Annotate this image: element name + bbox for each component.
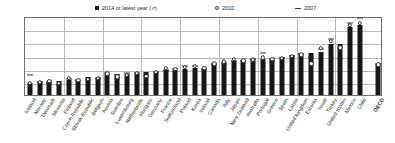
bar-2014 [173,70,178,95]
gini-chart: 2014 or latest year (↗) 2010 2007 0.500.… [0,0,395,143]
bar-slot [355,18,365,95]
bar-slot [373,18,383,95]
bar-2014 [183,69,188,95]
bar-slot [326,18,336,95]
legend-label-2007: 2007 [304,2,316,14]
bar-2014 [221,62,226,95]
bar-slot [335,18,345,95]
bar-2014 [260,59,265,95]
bar-slot [258,18,268,95]
bar-slot [44,18,54,95]
bar-2014 [134,73,139,95]
bar-2014 [280,57,285,95]
bar-slot [229,18,239,95]
legend-item-2007: 2007 [295,2,316,14]
marker-2007 [260,52,266,53]
bar-slot [248,18,258,95]
marker-2007 [114,79,120,80]
bar-slot [238,18,248,95]
bar-slot [219,18,229,95]
bar-2014 [212,63,217,95]
bar-2014 [231,61,236,95]
bar-slot [180,18,190,95]
bar-2014 [105,74,110,95]
legend-circle-icon [215,6,219,10]
bar-2014 [328,44,333,95]
bar-2014 [376,64,381,95]
bar-2014 [318,52,323,95]
bar-2014 [124,74,129,95]
bar-2014 [241,60,246,95]
bar-2014 [192,68,197,95]
bar-2014 [27,83,32,95]
bar-slot [141,18,151,95]
plot-area: 0.500.450.400.350.300.250.20 [24,17,382,96]
bar-slot [297,18,307,95]
bar-slot [25,18,35,95]
legend-label-2014: 2014 or latest year (↗) [102,2,157,14]
bar-slot [345,18,355,95]
legend-dash-icon [295,8,301,9]
marker-2007 [357,17,363,18]
bar-2014 [163,70,168,95]
bar-2014 [289,55,294,95]
bar-slot [74,18,84,95]
bar-slot [103,18,113,95]
bar-2014 [348,27,353,95]
bar-slot [151,18,161,95]
bar-slot [268,18,278,95]
bar-slot [64,18,74,95]
bar-2014 [309,53,314,95]
bar-slot [306,18,316,95]
bar-2014 [250,59,255,95]
marker-2007 [269,61,275,62]
marker-2010 [328,39,332,43]
x-axis-label: OECD [372,97,385,113]
bar-2014 [66,80,71,95]
bar-slot [209,18,219,95]
chart-legend: 2014 or latest year (↗) 2010 2007 [0,2,395,14]
legend-label-2010: 2010 [222,2,234,14]
bar-slot [161,18,171,95]
bar-2014 [299,53,304,95]
x-axis-labels: IcelandNorwayDenmarkSloveniaFinlandCzech… [24,97,382,143]
bar-slot [54,18,64,95]
bar-slot [35,18,45,95]
bar-slot [93,18,103,95]
legend-square-icon [95,6,99,10]
marker-2007 [221,63,227,64]
bar-slot [190,18,200,95]
legend-item-2010: 2010 [215,2,234,14]
bar-slot [83,18,93,95]
bar-slot [200,18,210,95]
bar-slot [132,18,142,95]
bar-slot [122,18,132,95]
bar-slot [316,18,326,95]
marker-2007 [27,75,33,76]
bar-2014 [270,58,275,95]
marker-2007 [308,56,314,57]
bar-2014 [357,25,362,95]
bar-slot [112,18,122,95]
bar-slot [277,18,287,95]
bar-series-group [25,18,381,95]
bar-2014 [202,69,207,95]
bar-2014 [76,80,81,95]
bar-2014 [153,72,158,95]
bar-slot [171,18,181,95]
bar-2014 [338,44,343,95]
bar-slot [287,18,297,95]
legend-item-2014: 2014 or latest year (↗) [95,2,157,14]
